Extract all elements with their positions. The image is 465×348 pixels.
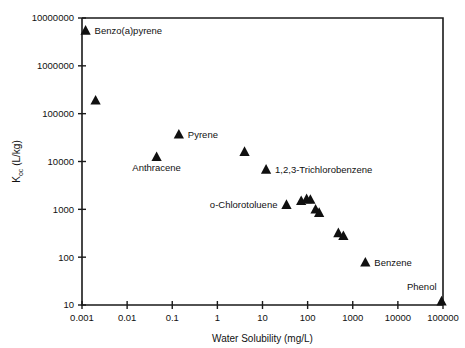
chart-canvas: 10100100010000100000100000010000000 0.00… (0, 0, 465, 348)
x-tick-label: 0.001 (70, 312, 94, 323)
chart-background (0, 0, 465, 348)
data-point-label: o-Chlorotoluene (210, 199, 278, 210)
data-point-label: 1,2,3-Trichlorobenzene (275, 164, 372, 175)
scatter-chart: 10100100010000100000100000010000000 0.00… (0, 0, 465, 348)
x-axis-title: Water Solubility (mg/L) (212, 333, 313, 344)
x-tick-label: 0.01 (118, 312, 137, 323)
y-tick-label: 1000 (53, 204, 74, 215)
x-tick-label: 1000 (342, 312, 363, 323)
x-tick-label: 100000 (427, 312, 459, 323)
x-tick-label: 10 (257, 312, 268, 323)
x-axis-tick-labels: 0.0010.010.1110100100010000100000 (70, 312, 459, 323)
y-tick-label: 1000000 (37, 60, 74, 71)
y-tick-label: 100000 (42, 108, 74, 119)
y-tick-label: 100 (58, 252, 74, 263)
y-tick-label: 10000 (48, 156, 74, 167)
x-tick-label: 10000 (385, 312, 411, 323)
data-point-label: Phenol (407, 281, 437, 292)
y-tick-label: 10 (63, 299, 74, 310)
data-point-label: Benzene (374, 257, 412, 268)
x-tick-label: 0.1 (166, 312, 179, 323)
y-axis-title: Koc (L/kg) (11, 140, 24, 182)
x-tick-label: 1 (215, 312, 220, 323)
data-point-label: Anthracene (132, 162, 181, 173)
data-point-label: Pyrene (188, 129, 218, 140)
x-tick-label: 100 (300, 312, 316, 323)
y-tick-label: 10000000 (32, 12, 74, 23)
data-point-label: Benzo(a)pyrene (95, 25, 163, 36)
